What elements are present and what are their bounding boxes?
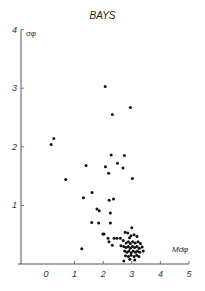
data-point — [128, 236, 131, 239]
data-point — [97, 221, 100, 224]
data-point — [124, 231, 127, 234]
data-point — [119, 237, 122, 240]
data-point — [104, 165, 107, 168]
y-tick-label: 1 — [12, 200, 17, 210]
data-point — [131, 240, 134, 243]
data-point — [124, 254, 127, 257]
data-point — [85, 164, 88, 167]
data-point — [98, 209, 101, 212]
axes: 1234012345σφMdφ — [11, 25, 193, 279]
data-point — [113, 237, 116, 240]
data-point — [119, 244, 122, 247]
data-point — [141, 246, 144, 249]
y-tick-label: 3 — [12, 83, 17, 93]
x-tick-label: 5 — [186, 269, 192, 279]
data-point — [116, 162, 119, 165]
data-point — [123, 154, 126, 157]
data-point — [80, 247, 83, 250]
data-point — [139, 242, 142, 245]
data-point — [121, 166, 124, 169]
data-point — [107, 237, 110, 240]
data-point — [133, 233, 136, 236]
plot-area: 1234012345σφMdφ — [0, 0, 205, 291]
x-tick-label: 0 — [43, 269, 48, 279]
data-point — [82, 196, 85, 199]
data-point — [91, 191, 94, 194]
data-point — [90, 221, 93, 224]
data-point — [64, 178, 67, 181]
data-point — [109, 221, 112, 224]
data-point — [134, 241, 137, 244]
data-point — [110, 154, 113, 157]
y-tick-label: 2 — [11, 142, 17, 152]
data-point — [128, 258, 131, 261]
chart-title: BAYS — [0, 10, 205, 21]
data-point — [122, 260, 125, 263]
x-tick-label: 2 — [100, 269, 106, 279]
data-point — [103, 233, 106, 236]
data-point — [109, 212, 112, 215]
data-point — [52, 137, 55, 140]
data-point — [115, 237, 118, 240]
data-point — [111, 244, 114, 247]
x-axis-label: Mdφ — [172, 245, 188, 254]
data-point — [104, 85, 107, 88]
data-point — [142, 250, 145, 253]
data-point — [133, 258, 136, 261]
data-point — [112, 197, 115, 200]
data-point — [111, 113, 114, 116]
data-point — [126, 231, 129, 234]
data-point — [50, 143, 53, 146]
data-point — [129, 254, 132, 257]
data-point — [137, 255, 140, 258]
data-point — [107, 172, 110, 175]
data-point — [131, 177, 134, 180]
data-point — [122, 239, 125, 242]
data-point — [127, 255, 130, 258]
x-tick-label: 4 — [158, 269, 163, 279]
y-axis-label: σφ — [26, 29, 36, 38]
data-point — [107, 240, 110, 243]
data-point — [138, 247, 141, 250]
data-point — [135, 235, 138, 238]
x-tick-label: 1 — [72, 269, 77, 279]
data-point — [129, 106, 132, 109]
x-tick-label: 3 — [129, 269, 134, 279]
data-point — [133, 255, 136, 258]
data-point — [138, 251, 141, 254]
data-point — [130, 226, 133, 229]
y-tick-label: 4 — [12, 25, 17, 35]
scatter-chart: BAYS 1234012345σφMdφ — [0, 0, 205, 291]
data-points — [50, 85, 145, 263]
data-point — [108, 199, 111, 202]
